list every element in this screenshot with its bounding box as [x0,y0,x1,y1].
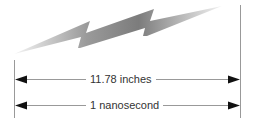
arrowhead-left-icon [15,76,27,84]
time-label: 1 nanosecond [86,99,163,111]
lightning-bolt-icon [14,6,222,54]
arrowhead-left-icon [15,102,27,110]
arrowhead-right-icon [228,102,240,110]
arrowhead-right-icon [228,76,240,84]
distance-label: 11.78 inches [86,73,156,85]
